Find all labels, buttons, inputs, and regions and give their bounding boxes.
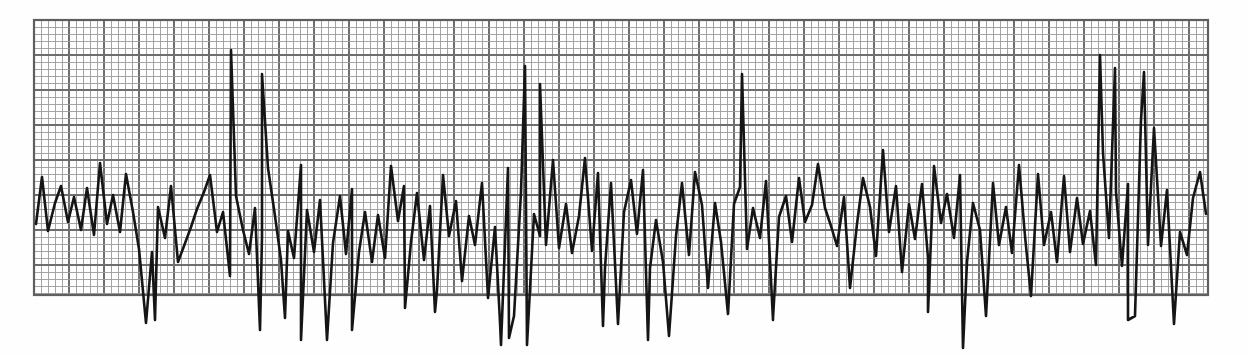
strip-chart-sheet (0, 0, 1249, 356)
strip-chart-svg (0, 0, 1249, 356)
